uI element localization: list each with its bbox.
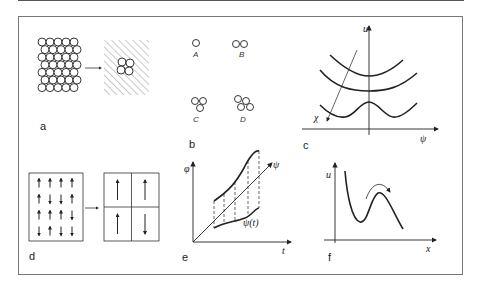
axis-label-chi: χ [313, 112, 319, 123]
axis-label-u: u [363, 23, 368, 34]
panel-label-e: e [182, 251, 188, 263]
cluster-label-b: B [239, 50, 245, 59]
chi-axis [327, 50, 357, 121]
cluster-label-d: D [240, 115, 246, 124]
panel-d: d [29, 173, 159, 262]
axis-label-u: u [326, 169, 331, 180]
panel-label-b: b [189, 138, 195, 150]
axis-label-x: x [425, 243, 431, 254]
curve-label-psi-t: ψ(t) [243, 217, 259, 229]
curved-arrow-icon [366, 184, 390, 199]
panel-b: A B C D b [189, 40, 254, 151]
panel-label-d: d [29, 250, 35, 262]
figure-canvas: a A B C D b u ψ χ c d [0, 0, 481, 291]
spin-grid [39, 179, 72, 236]
cluster-a [193, 40, 200, 47]
panel-f: u x f [324, 163, 436, 263]
packed-circles [38, 38, 81, 92]
panel-e: φ t ψ ψ(t) e [182, 151, 291, 263]
cluster-label-c: C [193, 115, 199, 124]
cluster-label-a: A [192, 50, 198, 59]
panel-c: u ψ χ c [302, 23, 438, 151]
axis-label-t: t [282, 245, 285, 256]
axis-label-psi: ψ [420, 133, 427, 144]
axis-label-psi-diag: ψ [273, 159, 280, 170]
panel-a: a [38, 38, 149, 132]
panel-label-a: a [40, 120, 47, 132]
panel-label-c: c [303, 139, 309, 151]
axis-label-phi: φ [184, 163, 190, 174]
panel-label-f: f [328, 251, 332, 263]
